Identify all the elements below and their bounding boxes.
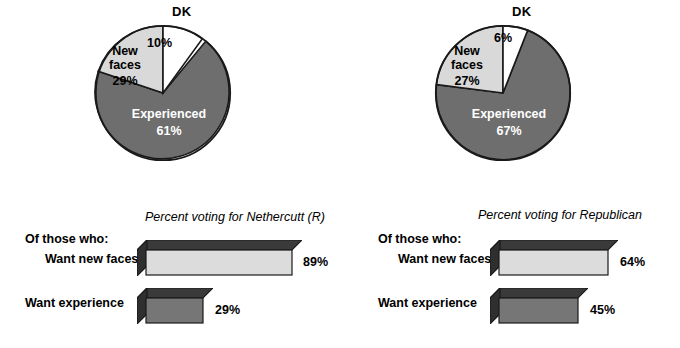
pie-label-dk: DK [172, 4, 191, 19]
bar-want-new-faces [490, 240, 618, 276]
bar-row-label-want-experience: Want experience [25, 296, 124, 310]
bar-3d-svg [137, 240, 302, 276]
group-label: Of those who: [378, 232, 461, 246]
bar-value-want-experience: 29% [215, 303, 240, 317]
bar-value-want-experience: 45% [590, 303, 615, 317]
pie-value-experienced: 67% [461, 124, 557, 138]
bar-front-face [146, 250, 292, 275]
pie-label-experienced: Experienced [121, 107, 217, 121]
pie-label-new-faces: New faces [440, 44, 494, 72]
pie-value-experienced: 61% [121, 124, 217, 138]
bar-row-label-want-experience: Want experience [378, 296, 477, 310]
bar-top-face [137, 288, 213, 298]
bar-want-new-faces [137, 240, 302, 276]
pie-label-new-faces: New faces [98, 44, 152, 72]
bar-top-face [137, 240, 302, 250]
bar-row-label-want-new-faces: Want new faces [45, 252, 138, 266]
bar-row-label-want-new-faces: Want new faces [398, 252, 491, 266]
bar-value-want-new-faces: 89% [303, 255, 328, 269]
bar-top-face [490, 240, 618, 250]
bar-want-experience [490, 288, 588, 324]
bar-3d-svg [490, 288, 588, 324]
bar-3d-svg [137, 288, 213, 324]
pie-label-experienced: Experienced [461, 107, 557, 121]
bar-chart-title-republican: Percent voting for Republican [478, 208, 642, 222]
bar-value-want-new-faces: 64% [620, 255, 645, 269]
pie-value-dk: 6% [494, 31, 512, 45]
bar-3d-svg [490, 240, 618, 276]
pie-label-dk: DK [512, 4, 531, 19]
bar-top-face [490, 288, 588, 298]
pie-value-new-faces: 27% [440, 74, 494, 88]
bar-front-face [499, 250, 608, 275]
group-label: Of those who: [25, 232, 108, 246]
bar-front-face [146, 298, 203, 323]
bar-front-face [499, 298, 578, 323]
pie-value-new-faces: 29% [98, 74, 152, 88]
bar-chart-title-nethercutt: Percent voting for Nethercutt (R) [145, 210, 325, 224]
bar-want-experience [137, 288, 213, 324]
